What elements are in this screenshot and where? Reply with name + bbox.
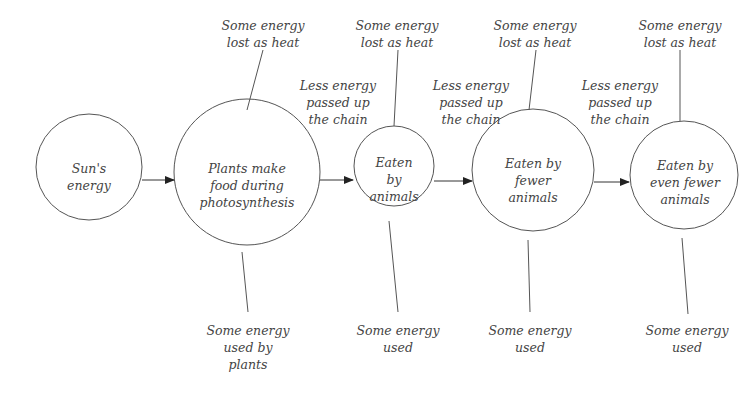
used-line-1 bbox=[242, 252, 248, 312]
passed-label-1: Less energy passed up the chain bbox=[283, 77, 393, 128]
used-label-4: Some energy used bbox=[632, 322, 742, 356]
heat-label-3: Some energy lost as heat bbox=[480, 17, 590, 51]
used-label-3: Some energy used bbox=[475, 322, 585, 356]
used-label-1: Some energy used by plants bbox=[188, 322, 308, 373]
node-evenfewer-label: Eaten by even fewer animals bbox=[630, 157, 740, 208]
passed-label-2: Less energy passed up the chain bbox=[416, 77, 526, 128]
node-plants-label: Plants make food during photosynthesis bbox=[182, 160, 312, 211]
used-line-2 bbox=[389, 221, 398, 312]
node-fewer-label: Eaten by fewer animals bbox=[478, 155, 588, 206]
node-animals-label: Eaten by animals bbox=[355, 154, 433, 205]
heat-label-2: Some energy lost as heat bbox=[342, 17, 452, 51]
heat-line-1 bbox=[247, 50, 263, 110]
used-line-3 bbox=[528, 240, 530, 312]
heat-line-2 bbox=[394, 50, 398, 126]
used-line-4 bbox=[682, 238, 688, 314]
node-sun-label: Sun's energy bbox=[44, 160, 134, 194]
heat-label-4: Some energy lost as heat bbox=[625, 17, 735, 51]
used-label-2: Some energy used bbox=[343, 322, 453, 356]
heat-line-3 bbox=[529, 50, 536, 110]
passed-label-3: Less energy passed up the chain bbox=[565, 77, 675, 128]
heat-label-1: Some energy lost as heat bbox=[208, 17, 318, 51]
